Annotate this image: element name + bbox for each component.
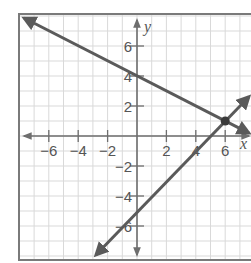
x-axis-label: x (239, 135, 247, 152)
y-tick-label: 6 (124, 38, 132, 55)
y-tick-label: −4 (115, 188, 132, 205)
x-tick-label: −6 (40, 142, 57, 159)
intersection-point (221, 117, 230, 126)
x-tick-label: −2 (99, 142, 116, 159)
coordinate-graph: −6−4−2246642−2−4−6xy (0, 0, 251, 263)
x-tick-label: 6 (221, 142, 229, 159)
axes (24, 20, 249, 255)
y-tick-label: 2 (124, 98, 132, 115)
graph-frame (19, 14, 251, 260)
x-tick-label: 2 (162, 142, 170, 159)
y-tick-label: −2 (115, 158, 132, 175)
x-tick-label: −4 (70, 142, 87, 159)
tick-labels: −6−4−2246642−2−4−6xy (40, 18, 247, 235)
y-axis-label: y (142, 18, 152, 36)
grid-lines (19, 14, 251, 260)
